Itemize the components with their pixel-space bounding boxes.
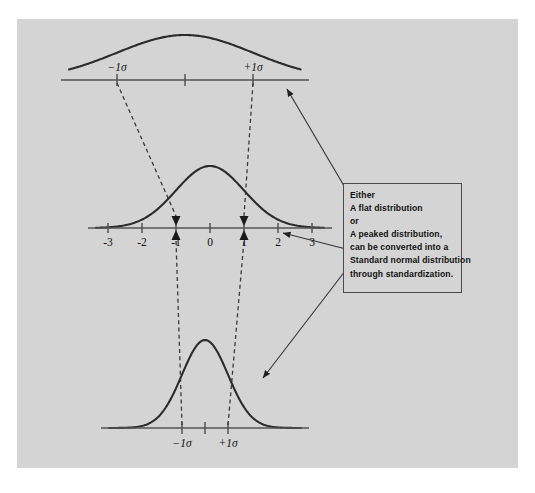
axis-labels: −1σ+1σ-3-2-10123−1σ+1σ [103, 61, 315, 449]
label-flat-minus-sigma: −1σ [107, 61, 128, 73]
note-line-3: or [350, 215, 456, 228]
label-standard--1: -1 [171, 236, 181, 248]
curve-flat-distribution [69, 35, 301, 70]
arrow-to-peaked-distribution [263, 262, 352, 378]
note-line-4: A peaked distribution, [350, 228, 456, 241]
note-line-2: A flat distribution [350, 202, 456, 215]
label-standard-0: 0 [207, 236, 213, 248]
curve-peaked-distribution [109, 340, 301, 428]
label-standard-2: 2 [275, 236, 281, 248]
connector-peaked-to-standard [176, 240, 182, 425]
label-standard-1: 1 [241, 236, 247, 248]
label-standard--2: -2 [137, 236, 147, 248]
axis-ticks [108, 74, 312, 434]
curve-standard-normal-distribution [96, 166, 324, 228]
arrow-to-flat-distribution [287, 89, 350, 196]
explanation-note-box: Either A flat distribution or A peaked d… [343, 183, 462, 293]
label-standard--3: -3 [103, 236, 113, 248]
note-line-5: can be converted into a [350, 241, 456, 254]
arrow-to-standard-normal [283, 233, 350, 250]
label-standard-3: 3 [309, 236, 315, 248]
label-peaked-minus-sigma: −1σ [172, 437, 193, 449]
connector-flat-to-standard [117, 83, 176, 216]
label-peaked-plus-sigma: +1σ [218, 437, 239, 449]
arrowhead-down-standard [240, 216, 249, 226]
arrowhead-down-standard [172, 216, 181, 226]
callout-arrows [263, 89, 352, 378]
note-line-7: through standardization. [350, 268, 456, 281]
figure-canvas: −1σ+1σ-3-2-10123−1σ+1σ Either A flat dis… [0, 0, 535, 493]
standardization-connectors [117, 83, 253, 425]
note-line-1: Either [350, 189, 456, 202]
distribution-axes [61, 80, 332, 428]
connector-peaked-to-standard [228, 240, 244, 425]
label-flat-plus-sigma: +1σ [243, 61, 264, 73]
note-line-6: Standard normal distribution [350, 254, 456, 267]
